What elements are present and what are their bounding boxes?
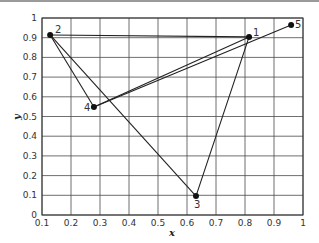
y-tick-label: 0.7 [23,72,37,82]
x-tick-label: 1 [300,218,306,228]
x-tick-label: 0.3 [93,218,107,228]
y-tick-label: 0.1 [23,190,37,200]
point-label-1: 1 [253,27,259,38]
edge-2-4 [50,35,94,107]
y-tick-label: 0.6 [23,92,38,102]
tick-labels: 0.10.20.30.40.50.60.70.80.9100.10.20.30.… [23,13,306,228]
y-tick-label: 0.4 [23,131,38,141]
y-tick-label: 1 [31,13,37,23]
edge-2-1 [50,35,249,37]
point-marker-1 [246,34,252,40]
point-label-4: 4 [84,102,90,113]
y-tick-label: 0 [31,210,37,220]
point-label-2: 2 [55,24,61,35]
x-tick-label: 0.8 [238,218,253,228]
y-tick-label: 0.5 [23,112,37,122]
x-axis-label: x [168,227,176,238]
y-tick-label: 0.3 [23,151,37,161]
y-tick-label: 0.9 [23,33,38,43]
chart: 0.10.20.30.40.50.60.70.80.9100.10.20.30.… [0,0,319,243]
x-tick-label: 0.5 [151,218,165,228]
point-label-3: 3 [194,199,200,210]
y-axis-label: y [11,113,22,121]
x-tick-label: 0.2 [64,218,78,228]
x-tick-label: 0.4 [122,218,137,228]
x-tick-label: 0.7 [209,218,223,228]
x-tick-label: 0.6 [180,218,195,228]
point-marker-4 [91,104,97,110]
x-tick-label: 0.9 [267,218,282,228]
edge-3-2 [50,35,196,196]
point-marker-2 [47,32,53,38]
y-tick-label: 0.2 [23,171,37,181]
grid [42,18,303,215]
point-marker-5 [288,22,294,28]
points: 12345 [47,19,301,210]
y-tick-label: 0.8 [23,52,38,62]
point-label-5: 5 [295,19,301,30]
